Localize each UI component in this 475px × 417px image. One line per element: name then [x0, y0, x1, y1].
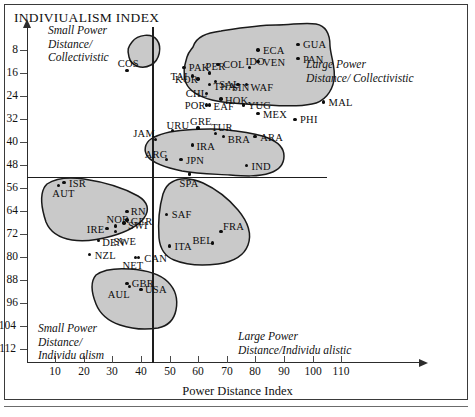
x-tick-label: 60	[183, 365, 213, 377]
data-point-label-den: DEN	[102, 237, 124, 248]
data-point-label-eca: ECA	[263, 45, 285, 56]
y-tick-label: 32	[0, 112, 18, 124]
x-tick-label: 40	[126, 365, 156, 377]
data-point-label-aul: AUL	[108, 289, 130, 300]
data-point-usa	[139, 288, 142, 291]
data-point-label-jpn: JPN	[186, 155, 204, 166]
y-tick-label: 104	[0, 319, 16, 331]
x-tick	[198, 356, 199, 363]
quadrant-label-bottom-right: Large Power Distance/Individu alistic	[238, 330, 351, 357]
data-point-bra	[222, 135, 225, 138]
y-tick	[20, 119, 27, 120]
data-point-label-pan: PAN	[303, 54, 324, 65]
data-point-label-jam: JAM	[133, 128, 155, 139]
y-tick-label: 56	[0, 181, 18, 193]
x-tick-label: 20	[69, 365, 99, 377]
y-tick	[20, 257, 27, 258]
data-point-label-ind: IND	[252, 161, 271, 172]
data-point-label-usa: USA	[145, 284, 167, 295]
data-point-label-ira: IRA	[196, 141, 215, 152]
y-tick-label: 16	[0, 66, 18, 78]
data-point-label-ire: IRE	[87, 224, 105, 235]
data-point-label-phi: PHI	[300, 114, 318, 125]
data-point-label-net: NET	[122, 260, 143, 271]
data-point-jpn	[179, 158, 182, 161]
data-point-label-eaf: EAF	[214, 101, 234, 112]
quadrant-line: Distance/Individu alistic	[238, 344, 351, 358]
data-point-label-swi: SWI	[128, 220, 148, 231]
quadrant-line: Small Power	[48, 24, 109, 38]
data-point-pan	[296, 57, 299, 60]
y-tick	[20, 96, 27, 97]
data-point-gua	[296, 43, 299, 46]
x-tick-label: 90	[269, 365, 299, 377]
quadrant-line: Distance/ Collectivistic	[306, 72, 414, 86]
quadrant-line: Distance/	[48, 38, 109, 52]
data-point-isr	[62, 181, 65, 184]
x-tick	[170, 356, 171, 363]
y-tick	[20, 326, 27, 327]
data-point-label-mex: MEX	[263, 109, 287, 120]
data-point-den	[97, 239, 100, 242]
data-point-label-can: CAN	[144, 253, 167, 264]
plot-area: 8 16 24 32 40 48 56 64 72 80 88 96 104 1…	[0, 0, 475, 417]
data-point-label-gre: GRE	[190, 116, 212, 127]
y-tick-label: 24	[0, 89, 18, 101]
y-tick-label: 96	[0, 296, 18, 308]
x-tick	[141, 356, 142, 363]
data-point-swe	[114, 230, 117, 233]
data-point-label-nor: NOR	[106, 214, 129, 225]
data-point-nzl	[88, 253, 91, 256]
data-point-label-aut: AUT	[52, 188, 74, 199]
x-tick-label: 80	[240, 365, 270, 377]
quadrant-line: Individu alism	[38, 349, 104, 363]
data-point-eca	[256, 48, 259, 51]
data-point-label-kor: KOR	[175, 74, 198, 85]
y-tick-label: 112	[0, 342, 16, 354]
data-point-mal	[322, 100, 325, 103]
y-axis-arrow-icon	[23, 19, 31, 28]
data-point-saf	[165, 213, 168, 216]
quadrant-line: Collectivistic	[48, 51, 109, 65]
data-point-ind	[245, 164, 248, 167]
x-tick-label: 110	[326, 365, 356, 377]
y-tick-label: 88	[0, 273, 18, 285]
chart-screenshot: INDIVIUALISM INDEX 8 16 24 3	[0, 0, 475, 417]
data-point-label-ita: ITA	[175, 241, 192, 252]
data-point-label-tur: TUR	[211, 122, 233, 133]
data-point-label-gua: GUA	[303, 39, 326, 50]
y-axis-line	[27, 27, 28, 363]
data-point-swi	[122, 221, 125, 224]
y-tick-label: 48	[0, 158, 18, 170]
data-point-rn	[125, 210, 128, 213]
data-point-tha	[208, 83, 211, 86]
data-point-ira	[191, 143, 194, 146]
data-point-label-saf: SAF	[172, 209, 192, 220]
data-point-label-spa: SPA	[180, 178, 199, 189]
data-point-pak	[182, 66, 185, 69]
data-point-label-uru: URU	[166, 120, 189, 131]
data-point-ara	[253, 135, 256, 138]
data-point-label-per: PER	[206, 61, 226, 72]
y-tick-label: 64	[0, 204, 18, 216]
data-point-label-waf: WAF	[251, 82, 274, 93]
x-tick-label: 10	[40, 365, 70, 377]
x-axis-title: Power Distance Index	[0, 384, 475, 399]
data-point-label-arg: ARG	[145, 149, 168, 160]
data-point-label-cos: COS	[118, 58, 139, 69]
y-tick	[20, 211, 27, 212]
data-point-ire	[105, 227, 108, 230]
y-tick	[20, 188, 27, 189]
y-tick	[20, 50, 27, 51]
x-tick	[227, 356, 228, 363]
y-tick	[20, 234, 27, 235]
y-tick-label: 40	[0, 135, 18, 147]
vertical-divider-line	[152, 27, 154, 363]
data-point-label-ven: VEN	[263, 57, 285, 68]
quadrant-label-bottom-left: Small Power Distance/ Individu alism	[38, 322, 104, 363]
data-point-label-bel: BEL	[192, 235, 212, 246]
data-point-label-ara: ARA	[260, 132, 283, 143]
data-point-label-ido: IDO	[245, 56, 264, 67]
y-tick	[20, 165, 27, 166]
quadrant-line: Large Power	[238, 330, 351, 344]
